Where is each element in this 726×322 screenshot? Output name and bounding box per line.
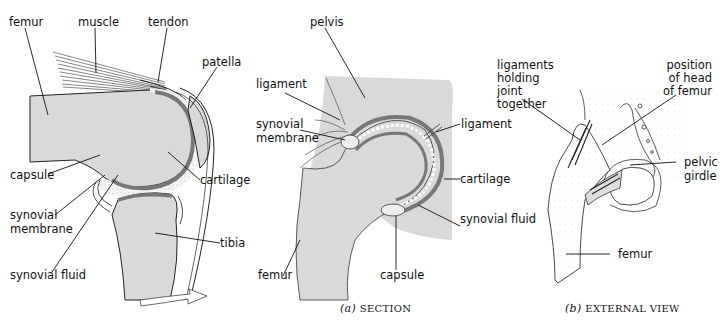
label-pelvis: pelvis <box>310 15 344 29</box>
knee-joint-drawing <box>25 28 220 306</box>
label-ligament-right: ligament <box>461 117 512 131</box>
caption-text: EXTERNAL VIEW <box>585 303 679 314</box>
label-capsule: capsule <box>10 168 54 182</box>
diagram-artwork <box>0 0 726 322</box>
label-ligaments-line1: ligaments <box>497 58 554 72</box>
muscle-fibres <box>53 52 172 94</box>
caption-section: (a) SECTION <box>340 302 411 315</box>
label-ligament-left: ligament <box>256 77 307 91</box>
label-position-line2: of head <box>640 71 712 85</box>
label-synovial-fluid: synovial fluid <box>460 212 536 226</box>
caption-text: SECTION <box>360 303 411 314</box>
label-cartilage: cartilage <box>200 173 250 187</box>
caption-letter: (b) <box>565 302 582 315</box>
label-tendon: tendon <box>148 15 189 29</box>
label-pelvic-line2: girdle <box>684 169 717 183</box>
label-synovial-membrane-line2: membrane <box>10 222 73 236</box>
label-position-line1: position <box>640 58 712 72</box>
caption-letter: (a) <box>340 302 356 315</box>
label-position-line3: of femur <box>640 84 712 98</box>
label-synovial-membrane-line2: membrane <box>256 131 319 145</box>
label-synovial-fluid: synovial fluid <box>10 268 86 282</box>
label-synovial-membrane-line1: synovial <box>10 208 57 222</box>
hip-external-drawing <box>522 90 685 283</box>
caption-external-view: (b) EXTERNAL VIEW <box>565 302 680 315</box>
label-femur: femur <box>258 268 292 282</box>
label-ligaments-line4: together <box>497 97 547 111</box>
joint-diagram-figure: femur muscle tendon patella capsule cart… <box>0 0 726 322</box>
label-pelvic-line1: pelvic <box>684 155 718 169</box>
label-tibia: tibia <box>220 236 245 250</box>
label-ligaments-line2: holding <box>497 71 540 85</box>
label-synovial-membrane-line1: synovial <box>256 117 303 131</box>
label-muscle: muscle <box>78 15 119 29</box>
hip-section-drawing <box>283 28 460 300</box>
label-cartilage: cartilage <box>460 172 510 186</box>
label-femur: femur <box>9 15 43 29</box>
label-patella: patella <box>202 55 241 69</box>
label-ligaments-line3: joint <box>497 84 522 98</box>
label-capsule: capsule <box>380 268 424 282</box>
label-femur: femur <box>618 247 652 261</box>
